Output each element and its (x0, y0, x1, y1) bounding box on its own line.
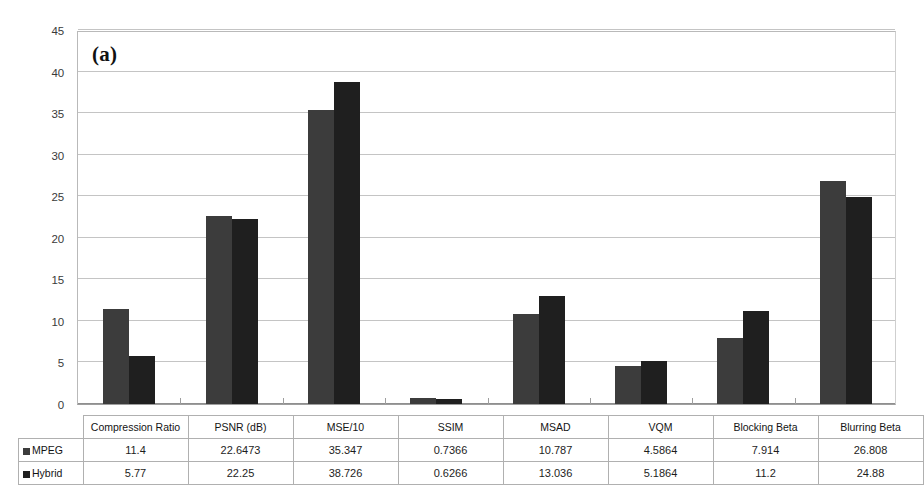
legend-swatch-icon (23, 448, 30, 455)
y-axis-tick-label: 10 (18, 316, 64, 328)
table-column-header: Blurring Beta (818, 416, 923, 439)
table-value-cell: 26.808 (818, 439, 923, 462)
table-body: MPEG11.422.647335.3470.736610.7874.58647… (19, 439, 924, 485)
bar-mpeg (820, 181, 846, 404)
bar-group (795, 32, 897, 404)
bar-group (385, 32, 487, 404)
y-axis-tick-label: 20 (18, 233, 64, 245)
table-header: Compression RatioPSNR (dB)MSE/10SSIMMSAD… (19, 416, 924, 439)
table-column-header: Compression Ratio (83, 416, 188, 439)
y-axis-tick-label: 40 (18, 67, 64, 79)
plot-area: (a) (77, 31, 896, 405)
table-value-cell: 0.7366 (398, 439, 503, 462)
table-row-header-hybrid: Hybrid (19, 462, 84, 485)
table-column-header: Blocking Beta (713, 416, 818, 439)
table-column-header: MSAD (503, 416, 608, 439)
bar-group (78, 32, 180, 404)
table-value-cell: 35.347 (293, 439, 398, 462)
gridline (78, 29, 895, 30)
table-row: MPEG11.422.647335.3470.736610.7874.58647… (19, 439, 924, 462)
bar-hybrid (129, 356, 155, 404)
table-value-cell: 13.036 (503, 462, 608, 485)
table-column-header: PSNR (dB) (188, 416, 293, 439)
y-axis-tick-label: 30 (18, 150, 64, 162)
bar-hybrid (641, 361, 667, 404)
table-column-header: VQM (608, 416, 713, 439)
bar-hybrid (232, 219, 258, 404)
table-value-cell: 7.914 (713, 439, 818, 462)
bar-group (180, 32, 282, 404)
bar-hybrid (743, 311, 769, 404)
legend-series-label: Hybrid (32, 467, 62, 479)
bar-mpeg (615, 366, 641, 404)
bar-group (692, 32, 794, 404)
bar-mpeg (308, 110, 334, 404)
y-axis-tick-label: 25 (18, 191, 64, 203)
table-column-header: SSIM (398, 416, 503, 439)
table-value-cell: 10.787 (503, 439, 608, 462)
bar-mpeg (206, 216, 232, 404)
bar-group (283, 32, 385, 404)
table-corner-cell (19, 416, 84, 439)
legend-swatch-icon (23, 471, 30, 478)
table-value-cell: 22.25 (188, 462, 293, 485)
table-value-cell: 5.77 (83, 462, 188, 485)
y-axis-tick-label: 35 (18, 108, 64, 120)
y-axis-tick-label: 0 (18, 399, 64, 411)
table-value-cell: 0.6266 (398, 462, 503, 485)
bar-group (488, 32, 590, 404)
bar-hybrid (846, 197, 872, 404)
table-value-cell: 4.5864 (608, 439, 713, 462)
table-value-cell: 5.1864 (608, 462, 713, 485)
table-value-cell: 11.4 (83, 439, 188, 462)
table-column-header: MSE/10 (293, 416, 398, 439)
bar-hybrid (436, 399, 462, 404)
legend-series-label: MPEG (32, 444, 63, 456)
bar-mpeg (103, 309, 129, 404)
bar-series-container (78, 32, 895, 404)
table-value-cell: 38.726 (293, 462, 398, 485)
y-axis-tick-label: 15 (18, 274, 64, 286)
bar-mpeg (513, 314, 539, 404)
table-value-cell: 22.6473 (188, 439, 293, 462)
bar-hybrid (539, 296, 565, 404)
y-axis: 051015202530354045 (18, 25, 70, 410)
table-value-cell: 11.2 (713, 462, 818, 485)
bar-mpeg (717, 338, 743, 404)
y-axis-tick-label: 45 (18, 25, 64, 37)
bar-hybrid (334, 82, 360, 404)
table-row: Hybrid5.7722.2538.7260.626613.0365.18641… (19, 462, 924, 485)
table-header-row: Compression RatioPSNR (dB)MSE/10SSIMMSAD… (19, 416, 924, 439)
table-value-cell: 24.88 (818, 462, 923, 485)
bar-group (590, 32, 692, 404)
y-axis-tick-label: 5 (18, 357, 64, 369)
data-table: Compression RatioPSNR (dB)MSE/10SSIMMSAD… (18, 415, 924, 485)
table-row-header-mpeg: MPEG (19, 439, 84, 462)
bar-mpeg (410, 398, 436, 404)
